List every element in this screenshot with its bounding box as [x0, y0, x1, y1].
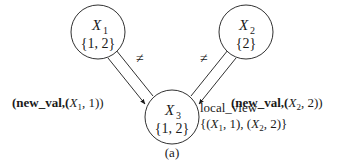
- node-x2-var: X: [238, 17, 249, 33]
- constraint-label-x2-x3: ≠: [200, 51, 208, 66]
- constraint-edge-x1-x3: [116, 50, 153, 96]
- paren: ,(: [281, 95, 289, 110]
- node-x3-domain: {1, 2}: [155, 121, 189, 136]
- node-x1: X 1 {1, 2}: [71, 5, 125, 59]
- caption: (a): [165, 145, 179, 160]
- local-view-label: local_view: [200, 100, 258, 115]
- val: , 2)): [301, 95, 323, 110]
- diagram: X 1 {1, 2} X 2 {2} X 3 {1, 2} ≠ ≠ (new_v…: [0, 0, 343, 166]
- node-x1-domain: {1, 2}: [81, 36, 115, 51]
- val: , 1)): [82, 95, 104, 110]
- node-x3-var: X: [164, 102, 175, 118]
- message-name: new_val: [16, 95, 62, 110]
- constraint-edge-x2-x3: [191, 50, 228, 96]
- node-x2: X 2 {2}: [219, 5, 273, 59]
- node-x3: X 3 {1, 2}: [145, 90, 199, 144]
- constraint-label-x1-x3: ≠: [136, 51, 144, 66]
- node-x1-sub: 1: [103, 25, 108, 36]
- node-x2-domain: {2}: [236, 36, 256, 51]
- text: , 1), (: [223, 116, 251, 131]
- text: {(: [200, 116, 211, 131]
- message-label-x1: (new_val,(X1, 1)): [12, 95, 104, 112]
- node-x3-sub: 3: [176, 110, 181, 121]
- paren: ,(: [62, 95, 70, 110]
- node-x2-sub: 2: [250, 25, 255, 36]
- text: , 2)}: [264, 116, 288, 131]
- node-x1-var: X: [91, 17, 102, 33]
- local-view-value: {(X1, 1), (X2, 2)}: [200, 116, 287, 133]
